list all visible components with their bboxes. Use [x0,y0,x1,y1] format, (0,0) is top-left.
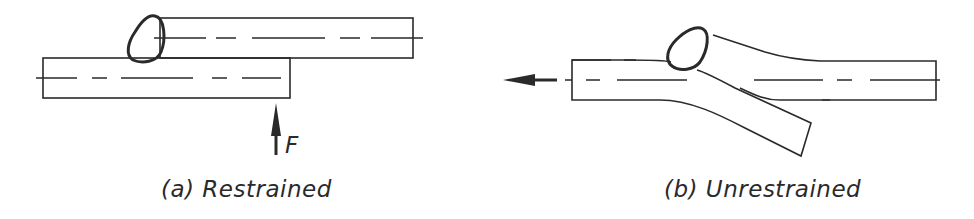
bent-plate-outline [713,35,936,100]
force-arrow-head [271,103,281,136]
fillet-weld [668,28,708,70]
caption-unrestrained: (b) Unrestrained [664,176,861,202]
panel-a-restrained [36,16,423,155]
caption-restrained: (a) Restrained [161,176,332,202]
force-label: F [285,132,298,158]
straight-plate-outline [572,60,811,156]
fillet-weld [128,16,164,62]
panel-b-unrestrained [503,28,940,156]
